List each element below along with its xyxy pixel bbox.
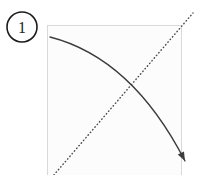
step-number-label: 1 [18, 19, 26, 36]
step-diagram-figure: 1 [0, 0, 198, 175]
paper-sheet-panel [48, 26, 182, 176]
diagram-canvas: 1 [0, 0, 198, 175]
